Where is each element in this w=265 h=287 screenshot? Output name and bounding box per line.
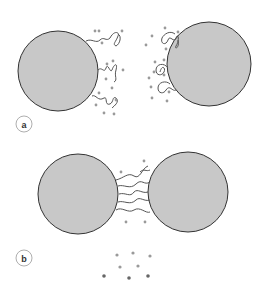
particle-right [167, 22, 251, 106]
steric-stabilization-diagram: a b [0, 0, 265, 287]
particle-left-b [38, 154, 118, 234]
panel-label-a: a [16, 116, 32, 132]
panel-b: b [16, 152, 228, 280]
particle-right-b [148, 152, 228, 232]
panel-label-b: b [16, 250, 32, 266]
panel-a: a [16, 22, 251, 132]
particle-left [18, 31, 98, 111]
label-b-text: b [21, 254, 27, 264]
displaced-dots [102, 251, 151, 279]
